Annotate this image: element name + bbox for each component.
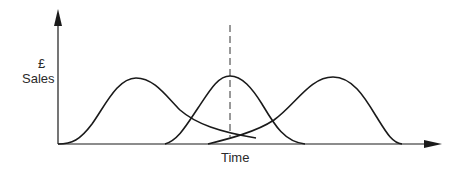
y-axis-label: Sales [22, 72, 55, 86]
currency-symbol-label: £ [38, 57, 45, 71]
x-axis-arrow-icon [424, 140, 442, 148]
y-axis-arrow-icon [54, 9, 62, 26]
product-life-cycle-diagram [0, 0, 460, 170]
x-axis-label: Time [221, 151, 249, 165]
sales-curve-product-1 [58, 78, 256, 144]
